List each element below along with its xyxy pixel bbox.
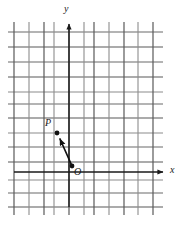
point-P-label: P <box>45 118 51 128</box>
vector-diagram-figure: y x P O <box>0 0 177 225</box>
x-axis-label: x <box>170 165 174 175</box>
grid-horizontal-lines <box>8 32 163 207</box>
point-P-marker <box>55 131 60 136</box>
point-O-label: O <box>74 167 81 177</box>
diagram-canvas <box>0 0 177 225</box>
y-axis-label: y <box>64 4 68 14</box>
